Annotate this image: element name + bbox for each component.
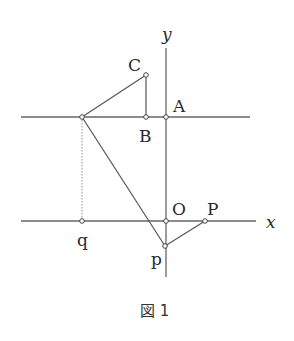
segment-left-to-C xyxy=(82,75,146,117)
label-P: P xyxy=(207,199,218,219)
label-O: O xyxy=(172,199,186,219)
point-P xyxy=(203,219,208,224)
point-p xyxy=(163,244,168,249)
segment-p-to-P xyxy=(165,221,205,246)
point-A xyxy=(164,115,169,120)
label-C: C xyxy=(128,55,141,75)
label-p: p xyxy=(151,249,162,269)
geometry-diagram: y x C A B O P q p 図 1 xyxy=(0,0,294,341)
point-O xyxy=(164,219,169,224)
point-left-top xyxy=(80,115,85,120)
figure-caption: 図 1 xyxy=(140,302,169,320)
point-q xyxy=(80,219,85,224)
label-A: A xyxy=(172,96,186,116)
label-q: q xyxy=(77,230,88,250)
segment-left-to-p xyxy=(82,117,165,246)
label-x-axis: x xyxy=(266,212,276,232)
label-y-axis: y xyxy=(161,24,172,44)
point-B xyxy=(144,115,149,120)
point-C xyxy=(144,73,149,78)
label-B: B xyxy=(139,126,152,146)
